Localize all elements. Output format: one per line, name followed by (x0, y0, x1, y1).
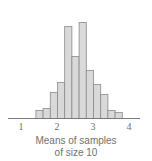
x-tick-labels: 1234 (19, 121, 132, 132)
histogram-bar (79, 23, 86, 119)
histogram-bar (115, 113, 122, 119)
x-tick-label: 1 (19, 121, 24, 132)
histogram-bar (72, 57, 79, 119)
histogram-bar (94, 85, 101, 119)
histogram-bar (36, 111, 43, 119)
histogram-bar (65, 27, 72, 119)
histogram-bar (43, 109, 50, 119)
histogram-bars (36, 23, 122, 119)
x-tick-label: 2 (55, 121, 60, 132)
x-axis-label-line-2: of size 10 (0, 147, 152, 159)
x-tick-label: 4 (127, 121, 132, 132)
histogram-bar (108, 111, 115, 119)
histogram-bar (101, 95, 108, 119)
x-axis-label-line-1: Means of samples (0, 135, 152, 147)
histogram-bar (58, 83, 65, 119)
x-tick-label: 3 (91, 121, 96, 132)
histogram-bar (86, 71, 93, 119)
histogram-bar (50, 93, 57, 119)
